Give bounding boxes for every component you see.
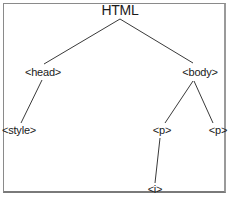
edge-html-body bbox=[120, 19, 193, 63]
node-html: HTML bbox=[102, 3, 139, 17]
node-i: <i> bbox=[148, 184, 163, 195]
edge-p1-i bbox=[155, 138, 160, 183]
edge-html-head bbox=[44, 19, 120, 64]
edge-body-p2 bbox=[194, 81, 213, 123]
node-p2: <p> bbox=[209, 125, 227, 136]
node-head: <head> bbox=[25, 67, 61, 78]
tree-edges bbox=[0, 0, 231, 200]
node-style: <style> bbox=[2, 125, 36, 136]
node-p1: <p> bbox=[153, 125, 171, 136]
edge-head-style bbox=[21, 80, 42, 123]
edge-body-p1 bbox=[165, 81, 193, 123]
node-body: <body> bbox=[182, 67, 218, 78]
